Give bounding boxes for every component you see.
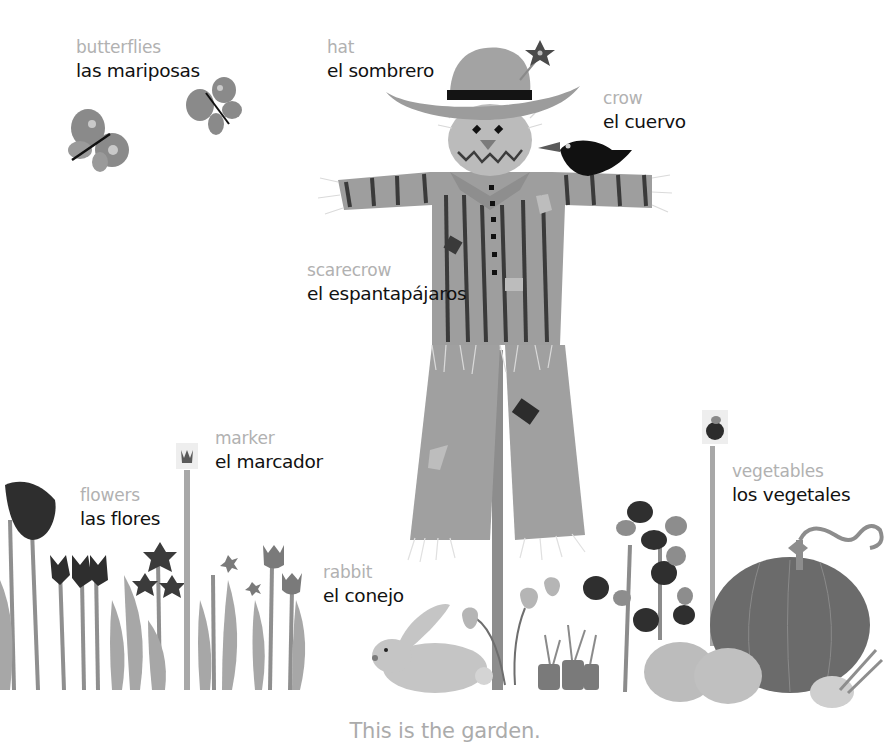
garden-illustration — [0, 0, 890, 747]
label-butterflies: butterflies las mariposas — [76, 39, 200, 81]
label-rabbit-en: rabbit — [323, 564, 404, 581]
label-butterflies-en: butterflies — [76, 39, 200, 56]
label-scarecrow-en: scarecrow — [307, 262, 466, 279]
label-vegetables-es: los vegetales — [732, 486, 850, 505]
label-butterflies-es: las mariposas — [76, 62, 200, 81]
butterfly-left — [68, 109, 129, 172]
label-flowers-en: flowers — [80, 487, 160, 504]
butterfly-right — [186, 77, 242, 135]
label-crow: crow el cuervo — [603, 90, 686, 132]
label-marker-es: el marcador — [215, 453, 323, 472]
label-rabbit-es: el conejo — [323, 587, 404, 606]
label-hat: hat el sombrero — [327, 39, 434, 81]
label-scarecrow: scarecrow el espantapájaros — [307, 262, 466, 304]
marker-stake — [176, 443, 198, 690]
label-flowers: flowers las flores — [80, 487, 160, 529]
label-vegetables: vegetables los vegetales — [732, 463, 850, 505]
label-hat-en: hat — [327, 39, 434, 56]
label-flowers-es: las flores — [80, 510, 160, 529]
label-marker: marker el marcador — [215, 430, 323, 472]
page-caption: This is the garden. — [0, 719, 890, 743]
label-rabbit: rabbit el conejo — [323, 564, 404, 606]
label-crow-es: el cuervo — [603, 113, 686, 132]
label-hat-es: el sombrero — [327, 62, 434, 81]
carrots — [538, 625, 599, 690]
label-marker-en: marker — [215, 430, 323, 447]
label-crow-en: crow — [603, 90, 686, 107]
crow — [538, 141, 632, 176]
label-vegetables-en: vegetables — [732, 463, 850, 480]
label-scarecrow-es: el espantapájaros — [307, 285, 466, 304]
